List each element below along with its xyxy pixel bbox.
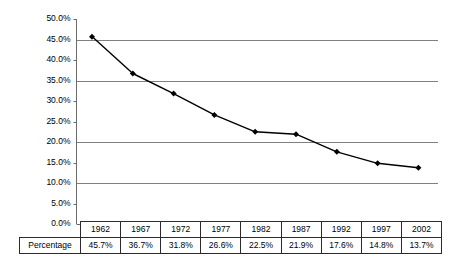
table-data-cell: 13.7% <box>401 238 441 254</box>
table-header-cell: 1997 <box>361 222 401 238</box>
table-header-cell: 1962 <box>81 222 121 238</box>
data-point-marker: 1992: 17.6% <box>334 149 340 155</box>
y-axis-label: 50.0% <box>25 14 71 23</box>
data-point-marker: 1997: 14.8% <box>375 160 381 166</box>
y-axis-label: 5.0% <box>25 199 71 208</box>
y-axis-label: 20.0% <box>25 137 71 146</box>
data-table: 196219671972197719821987199219972002 Per… <box>19 221 442 254</box>
y-axis-label: 10.0% <box>25 178 71 187</box>
table-header-cell: 1992 <box>321 222 361 238</box>
table-header-cell: 1977 <box>201 222 241 238</box>
table-header-cell: 2002 <box>401 222 441 238</box>
chart-figure: 1962: 45.7%1967: 36.7%1972: 31.8%1977: 2… <box>0 0 461 278</box>
data-point-marker: 2002: 13.7% <box>415 165 421 171</box>
series-line-percentage <box>92 37 418 168</box>
table-row: Percentage 45.7%36.7%31.8%26.6%22.5%21.9… <box>20 238 442 254</box>
table-data-cell: 17.6% <box>321 238 361 254</box>
data-point-marker: 1982: 22.5% <box>252 129 258 135</box>
table-data-cell: 14.8% <box>361 238 401 254</box>
table-header-row: 196219671972197719821987199219972002 <box>20 222 442 238</box>
table-corner-cell <box>20 222 81 238</box>
data-point-marker: 1972: 31.8% <box>171 91 177 97</box>
table-data-cell: 31.8% <box>161 238 201 254</box>
data-point-marker: 1987: 21.9% <box>293 131 299 137</box>
table-data-cell: 22.5% <box>241 238 281 254</box>
table-data-cell: 36.7% <box>121 238 161 254</box>
y-axis-label: 25.0% <box>25 117 71 126</box>
y-axis-label: 30.0% <box>25 96 71 105</box>
series-markers-percentage: 1962: 45.7%1967: 36.7%1972: 31.8%1977: 2… <box>89 34 421 171</box>
table-data-cell: 21.9% <box>281 238 321 254</box>
data-point-marker: 1977: 26.6% <box>211 112 217 118</box>
table-data-cell: 26.6% <box>201 238 241 254</box>
table-header-cell: 1982 <box>241 222 281 238</box>
y-axis-label: 35.0% <box>25 76 71 85</box>
table-header-cell: 1972 <box>161 222 201 238</box>
y-axis-label: 45.0% <box>25 35 71 44</box>
table-data-cell: 45.7% <box>81 238 121 254</box>
table-header-cell: 1987 <box>281 222 321 238</box>
table-header-cell: 1967 <box>121 222 161 238</box>
plot-area: 1962: 45.7%1967: 36.7%1972: 31.8%1977: 2… <box>0 0 461 232</box>
y-axis-label: 15.0% <box>25 158 71 167</box>
y-axis-label: 40.0% <box>25 55 71 64</box>
table-row-label: Percentage <box>20 238 81 254</box>
